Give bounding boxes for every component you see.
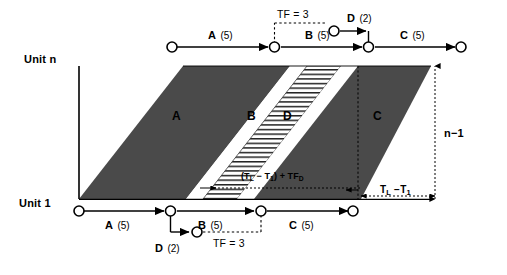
bot-activity-C-duration: (5) [301, 220, 313, 231]
top-node-2 [270, 42, 280, 52]
bot-node-3 [256, 206, 266, 216]
formula-label: (TL − T1) + TFD [241, 172, 304, 181]
dim-sub-L: L [386, 188, 391, 197]
dim-sub-1: 1 [406, 188, 410, 197]
formula-sub-L: L [250, 175, 254, 182]
bot-activity-C: C (5) [289, 216, 314, 232]
top-node-3 [364, 42, 374, 52]
top-node-d [329, 26, 339, 36]
top-activity-C-duration: (5) [412, 30, 424, 41]
top-activity-A-duration: (5) [220, 30, 232, 41]
top-activity-D-duration: (2) [359, 13, 371, 24]
dim-mid: −T [391, 184, 406, 195]
top-node-end [456, 42, 466, 52]
top-activity-B-duration: (5) [317, 30, 329, 41]
top-activity-D: D (2) [347, 9, 372, 25]
bot-node-2 [166, 206, 176, 216]
bot-activity-D-duration: (2) [167, 243, 179, 254]
unit-1-label: Unit 1 [19, 198, 51, 209]
unit-n-label: Unit n [24, 54, 56, 65]
bot-activity-A: A (5) [105, 216, 130, 232]
top-activity-A: A (5) [208, 26, 233, 42]
bot-activity-A-name: A [105, 219, 113, 231]
top-activity-B-name: B [305, 29, 313, 41]
top-activity-D-name: D [347, 12, 355, 24]
formula-mid: − T [254, 171, 270, 181]
top-activity-B: B (5) [305, 26, 330, 42]
formula-sub-1: 1 [270, 175, 274, 182]
bot-activity-A-duration: (5) [117, 220, 129, 231]
bot-activity-B-name: B [198, 219, 206, 231]
bot-activity-D: D (2) [155, 239, 180, 255]
formula-sub-D: D [299, 175, 304, 182]
top-activity-C-name: C [400, 29, 408, 41]
band-label-D: D [283, 110, 292, 122]
bot-activity-B-duration: (5) [210, 220, 222, 231]
bot-activity-C-name: C [289, 219, 297, 231]
top-node-start [167, 42, 177, 52]
band-label-A: A [172, 110, 181, 122]
top-float-label: TF = 3 [277, 9, 309, 20]
figure-canvas: Unit n Unit 1 A (5) B (5) C (5) D (2) TF… [0, 0, 507, 275]
bot-node-end [348, 206, 358, 216]
band-label-B: B [247, 110, 256, 122]
bot-node-start [74, 206, 84, 216]
diagram-svg [0, 0, 507, 275]
formula-lead: (T [241, 171, 250, 181]
top-activity-C: C (5) [400, 26, 425, 42]
duration-dim-label: TL −T1 [380, 185, 411, 195]
top-activity-A-name: A [208, 29, 216, 41]
bot-activity-D-name: D [155, 242, 163, 254]
band-label-C: C [373, 110, 382, 122]
n-minus-1-label: n−1 [444, 128, 464, 139]
formula-tail: ) + TF [274, 171, 299, 181]
bot-float-label: TF = 3 [213, 238, 245, 249]
bot-activity-B: B (5) [198, 216, 223, 232]
